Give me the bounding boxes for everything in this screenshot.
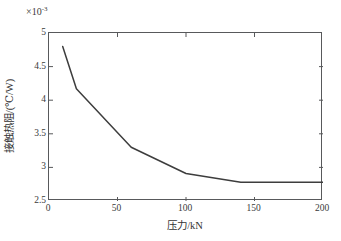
x-tick-label: 150	[234, 203, 274, 214]
x-tick-label: 200	[302, 203, 341, 214]
x-tick-label: 50	[97, 203, 137, 214]
axis-tick-marks	[49, 33, 323, 201]
chart-figure: ×10-3 2.533.544.55 050100150200 压力/kN 接触…	[0, 0, 341, 241]
y-axis-multiplier-base: ×10	[26, 6, 42, 17]
series-layer	[63, 46, 323, 182]
data-curve-svg	[49, 33, 323, 201]
y-axis-title: 接触热阻/(℃/W)	[3, 79, 16, 153]
y-axis-multiplier-label: ×10-3	[26, 6, 47, 18]
y-axis-title-wrapper: 接触热阻/(℃/W)	[0, 32, 18, 200]
x-tick-label: 100	[165, 203, 205, 214]
x-axis-title: 压力/kN	[48, 219, 322, 232]
y-axis-multiplier-exponent: -3	[42, 5, 48, 13]
x-tick-label: 0	[28, 203, 68, 214]
data-series-line	[63, 46, 323, 182]
plot-area	[48, 32, 322, 200]
